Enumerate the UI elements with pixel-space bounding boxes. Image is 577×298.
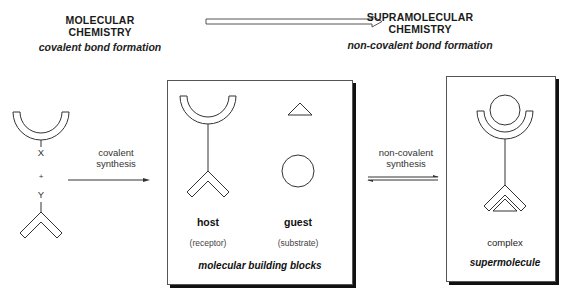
supermolecule-caption: supermolecule xyxy=(455,257,555,268)
supermolecule-complex-icon xyxy=(0,0,577,298)
complex-label: complex xyxy=(470,237,540,248)
